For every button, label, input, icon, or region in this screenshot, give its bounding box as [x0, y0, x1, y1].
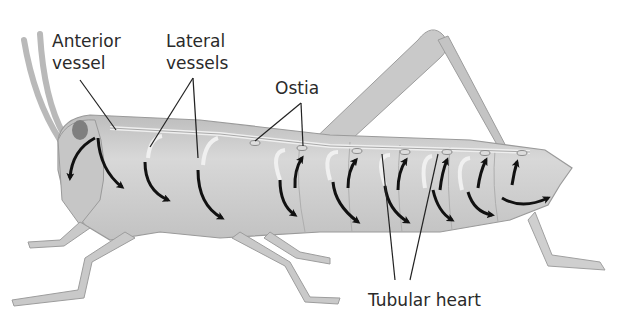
- grasshopper-circulation-diagram: Anterior vessel Lateral vessels Ostia Tu…: [0, 0, 625, 320]
- label-ostia: Ostia: [275, 78, 319, 98]
- label-anterior-vessel-line1: Anterior: [52, 31, 121, 51]
- label-lateral-vessels-line1: Lateral: [166, 31, 225, 51]
- label-anterior-vessel-line2: vessel: [52, 53, 105, 73]
- label-lateral-vessels-line2: vessels: [166, 53, 228, 73]
- legs: [12, 222, 340, 306]
- label-tubular-heart: Tubular heart: [368, 290, 481, 310]
